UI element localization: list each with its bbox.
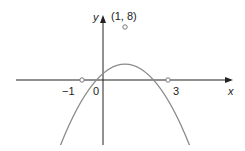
x-axis-arrow-icon: [225, 77, 233, 83]
y-axis-label: y: [92, 11, 100, 23]
vertex-point: [123, 25, 127, 29]
vertex-label: (1, 8): [111, 10, 137, 22]
x-axis-label: x: [227, 85, 234, 97]
y-axis-arrow-icon: [100, 15, 106, 23]
root-left-point: [80, 78, 84, 82]
origin-label: 0: [93, 85, 99, 97]
root-right-point: [166, 78, 170, 82]
parabola-curve: [57, 64, 193, 151]
root-left-label: −1: [62, 85, 75, 97]
parabola-graph: y (1, 8) −1 0 3 x: [0, 0, 245, 151]
root-right-label: 3: [173, 85, 179, 97]
